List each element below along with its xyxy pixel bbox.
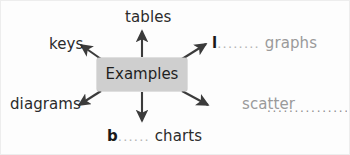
branch-label-line-graphs-text: graphs xyxy=(265,34,317,52)
branch-label-tables-text: tables xyxy=(125,8,171,26)
arrow-to-diagrams xyxy=(79,91,101,105)
branch-label-diagrams-text: diagrams xyxy=(10,95,81,113)
center-node-examples: Examples xyxy=(97,58,187,91)
arrow-to-scatter xyxy=(182,91,208,105)
branch-blank-line-graphs: ........ xyxy=(217,36,260,51)
branch-label-keys-text: keys xyxy=(49,35,83,53)
branch-label-line-graphs: l........ graphs xyxy=(212,36,317,51)
branch-label-bar-charts: b...... charts xyxy=(107,129,202,144)
arrow-to-keys xyxy=(81,45,101,59)
branch-label-diagrams: diagrams xyxy=(10,97,81,112)
arrow-to-line-graphs xyxy=(182,44,206,59)
branch-label-bar-charts-text: charts xyxy=(155,127,202,145)
branch-label-tables: tables xyxy=(125,10,171,25)
branch-prefix-bar-charts: b xyxy=(107,127,118,145)
branch-blank-scatter: ................ xyxy=(267,102,347,114)
branch-blank-bar-charts: ...... xyxy=(118,129,150,144)
concept-map-worksheet: Examples tables keys l........ graphs di… xyxy=(0,0,350,155)
center-node-label: Examples xyxy=(106,67,179,82)
branch-label-keys: keys xyxy=(49,37,83,52)
